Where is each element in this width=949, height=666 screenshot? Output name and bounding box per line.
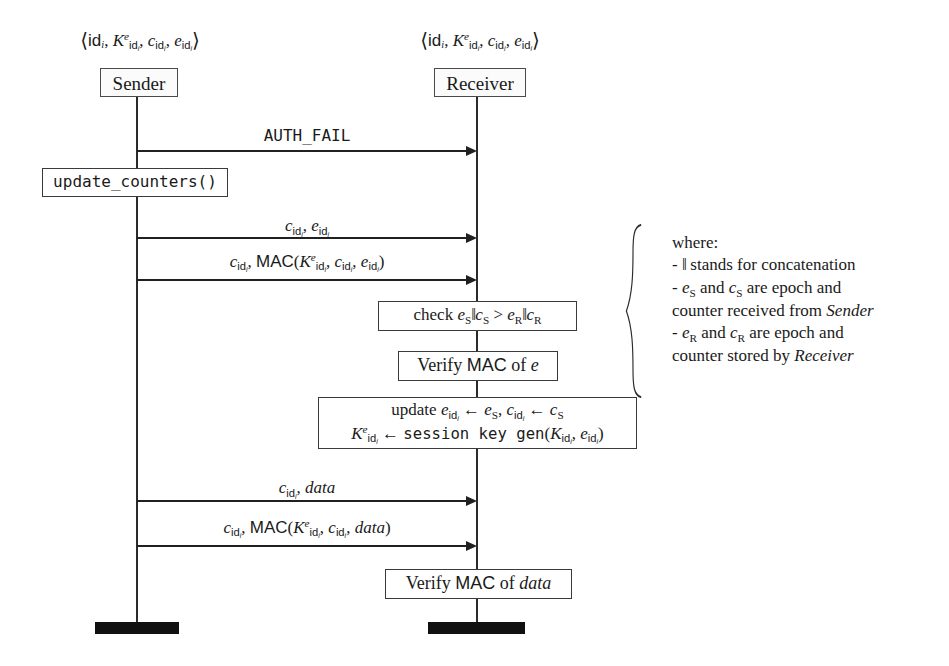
message-arrow-auth-fail [137, 150, 467, 152]
actor-receiver[interactable]: Receiver [434, 68, 526, 97]
legend-item-sender: - eS and cS are epoch and [672, 277, 874, 300]
message-arrow-data-mac [137, 545, 467, 547]
arrow-head-counters [466, 233, 477, 243]
arrow-head-data-mac [466, 541, 477, 551]
message-label-data: cidi, data [279, 478, 336, 499]
actor-sender[interactable]: Sender [100, 68, 178, 97]
process-box-verify-mac-data[interactable]: Verify MAC of data [385, 569, 572, 599]
message-label-data-mac: cidi, MAC(Keidi, cidi, data) [223, 517, 390, 539]
sequence-diagram: ⟨idi, Keidi, cidi, eidi⟩ Sender ⟨idi, Ke… [0, 0, 949, 666]
message-arrow-data [137, 500, 467, 502]
termination-bar-sender [95, 622, 179, 634]
arrow-head-auth-fail [466, 146, 477, 156]
message-arrow-counters-mac [137, 279, 467, 281]
legend-item-receiver-cont: counter stored by Receiver [672, 345, 874, 367]
receiver-state-annotation: ⟨idi, Keidi, cidi, eidi⟩ [370, 28, 590, 52]
process-box-update-state-line2: Keidi ← session key gen(Kidi, eidi) [351, 423, 604, 446]
process-box-update-state-line1: update eidi ← eS, cidi ← cS [391, 400, 563, 423]
process-box-verify-mac-e[interactable]: Verify MAC of e [398, 351, 558, 381]
legend-item-receiver: - eR and cR are epoch and [672, 322, 874, 345]
process-box-check-epoch[interactable]: check eS‖cS > eR‖cR [378, 301, 577, 331]
sender-state-annotation: ⟨idi, Keidi, cidi, eidi⟩ [30, 28, 250, 52]
process-box-update-counters-label: update_counters() [53, 173, 217, 192]
legend-item-concatenation: - ‖ stands for concatenation [672, 254, 874, 277]
legend-brace-icon [622, 222, 647, 392]
arrow-head-counters-mac [466, 275, 477, 285]
legend-heading: where: [672, 232, 874, 254]
termination-bar-receiver [428, 622, 525, 634]
process-box-update-counters[interactable]: update_counters() [42, 168, 228, 197]
message-arrow-counters [137, 237, 467, 239]
legend-item-sender-cont: counter received from Sender [672, 300, 874, 322]
arrow-head-data [466, 496, 477, 506]
message-label-counters-mac: cidi, MAC(Keidi, cidi, eidi) [230, 251, 385, 273]
message-label-counters: cidi, eidi [285, 216, 329, 237]
actor-sender-label: Sender [113, 73, 166, 94]
process-box-update-state[interactable]: update eidi ← eS, cidi ← cS Keidi ← sess… [318, 397, 637, 449]
legend-text: where: - ‖ stands for concatenation - eS… [672, 232, 874, 367]
actor-receiver-label: Receiver [446, 73, 514, 94]
message-label-auth-fail: AUTH_FAIL [264, 126, 351, 145]
